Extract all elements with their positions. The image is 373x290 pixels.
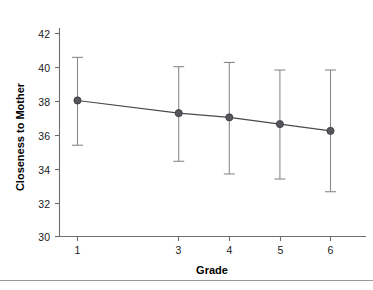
data-point-marker <box>175 110 182 117</box>
y-tick-label-32: 32 <box>38 198 50 210</box>
x-tick-label-1: 1 <box>75 244 81 256</box>
y-tick-label-42: 42 <box>38 28 50 40</box>
y-tick-label-40: 40 <box>38 62 50 74</box>
chart-figure: Closeness to Mother 42 40 38 36 34 32 30 <box>0 0 373 290</box>
data-point-marker <box>276 121 283 128</box>
data-point-marker <box>74 97 81 104</box>
y-tick-label-38: 38 <box>38 96 50 108</box>
y-tick-label-30: 30 <box>38 231 50 243</box>
line-chart-with-error-bars: Closeness to Mother 42 40 38 36 34 32 30 <box>0 0 373 290</box>
x-tick-label-4: 4 <box>227 244 233 256</box>
y-axis-title: Closeness to Mother <box>14 82 26 191</box>
chart-background <box>0 0 373 290</box>
data-point-marker <box>327 127 334 134</box>
x-tick-label-3: 3 <box>176 244 182 256</box>
x-tick-label-5: 5 <box>278 244 284 256</box>
y-tick-label-34: 34 <box>38 164 50 176</box>
data-point-marker <box>226 114 233 121</box>
footer-divider <box>0 280 373 281</box>
x-axis-title: Grade <box>196 264 228 276</box>
x-tick-label-6: 6 <box>328 244 334 256</box>
y-tick-label-36: 36 <box>38 130 50 142</box>
